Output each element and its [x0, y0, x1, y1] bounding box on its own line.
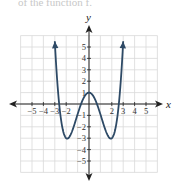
x-tick-label: −4 [39, 106, 49, 116]
curve-right-arrow-icon [120, 41, 126, 48]
y-axis-label: y [85, 11, 91, 23]
x-tick-label: 2 [110, 106, 114, 116]
y-tick-label: 2 [82, 76, 86, 86]
x-tick-label: −5 [27, 106, 36, 116]
x-axis-label: x [165, 98, 171, 110]
x-tick-label: −3 [50, 106, 59, 116]
function-graph: −5−4−3−2234554321−1−2−3−4−5 x y [0, 0, 176, 187]
y-tick-label: 5 [82, 42, 86, 52]
y-tick-label: −4 [77, 145, 87, 155]
y-tick-label: −2 [77, 122, 86, 132]
curve-left-arrow-icon [52, 41, 58, 48]
y-tick-label: −3 [77, 133, 86, 143]
y-tick-label: −5 [77, 156, 86, 166]
x-tick-label: −2 [62, 106, 71, 116]
x-tick-label: 5 [144, 106, 148, 116]
y-tick-label: 3 [82, 65, 86, 75]
x-tick-label: 3 [121, 106, 125, 116]
x-tick-label: 4 [132, 106, 137, 116]
